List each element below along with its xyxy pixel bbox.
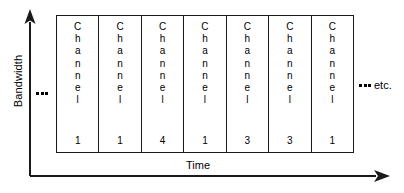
channel-number: 1 [184,135,225,146]
bandwidth-time-diagram: Bandwidth C h a n n e l 1 C h a n n [0,0,404,193]
channel-letter: C [329,21,336,33]
channel-letter: l [204,94,206,106]
channel-label-vertical: C h a n n e l [201,21,208,106]
channel-letter: C [286,21,293,33]
channel-label-vertical: C h a n n e l [286,21,293,106]
channel-number: 4 [142,135,183,146]
channel-number: 3 [269,135,310,146]
channel-letter: n [245,58,251,70]
channel-letter: C [201,21,208,33]
channel-number: 1 [312,135,353,146]
channel-cell[interactable]: C h a n n e l 4 [142,16,184,152]
channel-cell[interactable]: C h a n n e l 1 [312,16,353,152]
channel-letter: l [77,94,79,106]
channel-letter: C [244,21,251,33]
channel-cell[interactable]: C h a n n e l 1 [184,16,226,152]
channel-letter: n [329,58,335,70]
channel-letter: e [75,82,81,94]
channel-number: 3 [227,135,268,146]
channel-label-vertical: C h a n n e l [244,21,251,106]
channel-letter: a [329,45,335,57]
channel-cell[interactable]: C h a n n e l 1 [99,16,141,152]
channel-letter: a [160,45,166,57]
channel-letter: n [329,70,335,82]
channel-letter: l [246,94,248,106]
channel-cell[interactable]: C h a n n e l 3 [269,16,311,152]
channel-letter: h [287,33,293,45]
channel-label-vertical: C h a n n e l [329,21,336,106]
channel-letter: h [245,33,251,45]
channel-label-vertical: C h a n n e l [74,21,81,106]
channel-cell[interactable]: C h a n n e l 3 [227,16,269,152]
channel-letter: n [287,58,293,70]
channel-letter: e [329,82,335,94]
y-axis-label: Bandwidth [12,41,24,121]
channel-letter: C [159,21,166,33]
channel-letter: h [117,33,123,45]
channel-letter: e [287,82,293,94]
channel-letter: n [287,70,293,82]
channel-letter: l [161,94,163,106]
channel-letter: n [160,70,166,82]
ellipsis-dots-left [36,85,48,101]
channel-letter: l [331,94,333,106]
channel-letter: h [202,33,208,45]
channel-letter: a [117,45,123,57]
channel-letter: n [75,70,81,82]
channel-letter: e [117,82,123,94]
channel-letter: h [329,33,335,45]
x-axis-label: Time [186,159,210,171]
channel-letter: e [245,82,251,94]
channel-letter: n [245,70,251,82]
channel-letter: a [75,45,81,57]
channel-letter: n [117,58,123,70]
left-ellipsis [36,84,48,102]
channel-strip: C h a n n e l 1 C h a n n e l 1 [56,15,354,153]
continuation-indicator: etc. [359,79,392,91]
channel-letter: n [160,58,166,70]
channel-letter: e [202,82,208,94]
channel-cell[interactable]: C h a n n e l 1 [57,16,99,152]
channel-letter: n [202,58,208,70]
channel-number: 1 [99,135,140,146]
channel-letter: C [74,21,81,33]
channel-letter: n [117,70,123,82]
channel-label-vertical: C h a n n e l [117,21,124,106]
ellipsis-dots-right [359,80,371,91]
channel-letter: n [75,58,81,70]
channel-letter: a [202,45,208,57]
channel-number: 1 [57,135,98,146]
channel-letter: e [160,82,166,94]
channel-letter: h [75,33,81,45]
channel-letter: C [117,21,124,33]
channel-letter: l [119,94,121,106]
channel-letter: h [160,33,166,45]
channel-letter: l [289,94,291,106]
etc-label: etc. [374,79,392,91]
channel-letter: a [245,45,251,57]
channel-label-vertical: C h a n n e l [159,21,166,106]
channel-letter: n [202,70,208,82]
channel-letter: a [287,45,293,57]
